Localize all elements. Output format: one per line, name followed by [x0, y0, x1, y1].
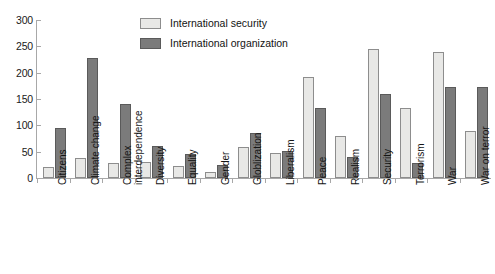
x-axis-category-label: Complex interdependence [123, 110, 144, 185]
x-axis-tick [70, 179, 71, 183]
x-axis-category-label: War on terror [481, 126, 492, 185]
x-axis-tick [297, 179, 298, 183]
y-axis-tick-label: 300 [0, 15, 33, 25]
x-axis-tick [167, 179, 168, 183]
y-axis-tick-label: 150 [0, 94, 33, 104]
bar [400, 108, 411, 178]
bar [75, 158, 86, 178]
legend-label-international-organization: International organization [170, 38, 288, 49]
bar [205, 172, 216, 178]
y-axis-tick-label: 0 [0, 173, 33, 183]
bar [433, 52, 444, 178]
x-axis-tick [395, 179, 396, 183]
x-axis-category-label: Climate change [91, 116, 102, 185]
x-axis-tick [102, 179, 103, 183]
bar [238, 147, 249, 178]
bar-chart: 050100150200250300 CitizensClimate chang… [0, 0, 495, 274]
legend-swatch-icon-international-security [140, 18, 161, 29]
y-axis-tick-label: 250 [0, 41, 33, 51]
y-axis-tick-label-text: 0 [3, 173, 33, 183]
x-axis-category-label: Globlization [253, 133, 264, 185]
bar [335, 136, 346, 178]
x-axis-tick [427, 179, 428, 183]
legend-item-international-organization: International organization [140, 38, 360, 49]
y-axis-tick-label-text: 50 [3, 147, 33, 157]
y-axis-tick-label: 50 [0, 147, 33, 157]
bar [445, 87, 456, 178]
bar [108, 163, 119, 178]
bar [43, 167, 54, 178]
legend-swatch-icon-international-organization [140, 38, 161, 49]
x-axis-category-label: Peace [318, 157, 329, 185]
bar [173, 166, 184, 178]
y-axis-tick-label-text: 200 [3, 68, 33, 78]
x-axis-tick [265, 179, 266, 183]
y-axis-tick-label: 100 [0, 120, 33, 130]
x-axis-category-label: Realism [351, 149, 362, 185]
x-axis-category-label: Diversity [156, 147, 167, 185]
bar [465, 131, 476, 178]
x-axis-tick [330, 179, 331, 183]
y-axis-tick-label: 200 [0, 68, 33, 78]
y-axis-tick-label-text: 250 [3, 41, 33, 51]
legend-item-international-security: International security [140, 18, 360, 29]
y-axis-tick-label-text: 100 [3, 120, 33, 130]
x-axis-category-label: Equality [188, 149, 199, 185]
x-axis-category-label: Liberalism [286, 139, 297, 185]
x-axis-tick [37, 179, 38, 183]
legend-label-international-security: International security [170, 18, 267, 29]
x-axis-tick [200, 179, 201, 183]
x-axis-category-label: Security [383, 149, 394, 185]
x-axis-category-label: Gender [221, 152, 232, 185]
y-axis-tick-label-text: 150 [3, 94, 33, 104]
bar [303, 77, 314, 178]
x-axis-category-label: Citizens [58, 149, 69, 185]
bar [368, 49, 379, 178]
x-axis-tick [362, 179, 363, 183]
x-axis-tick [460, 179, 461, 183]
bar [270, 153, 281, 178]
x-axis-category-label: War [448, 167, 459, 185]
y-axis-tick-label-text: 300 [3, 15, 33, 25]
chart-legend: International security International org… [140, 18, 360, 58]
x-axis-tick [232, 179, 233, 183]
x-axis-category-label: Terrorism [416, 143, 427, 185]
